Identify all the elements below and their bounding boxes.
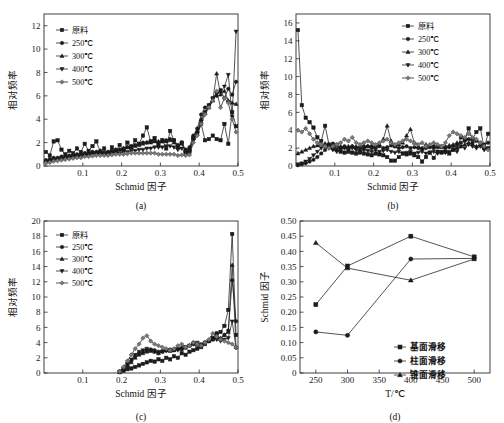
y-tick-label: 6	[36, 91, 41, 101]
legend-item[interactable]: 250℃	[56, 39, 93, 48]
y-tick-label: 0	[288, 161, 293, 171]
legend-item[interactable]: 基面滑移	[394, 341, 446, 352]
y-tick-label: 10	[32, 44, 42, 54]
data-point	[149, 359, 152, 362]
legend-label: 300℃	[72, 255, 93, 264]
y-tick-label: 4	[288, 125, 293, 135]
data-point	[176, 356, 179, 359]
data-point	[312, 126, 315, 129]
x-tick-label: 0.3	[155, 168, 167, 178]
data-point	[413, 145, 417, 149]
legend-item[interactable]: 500℃	[402, 74, 439, 83]
legend-label: 500℃	[72, 78, 93, 87]
legend-item[interactable]: 250℃	[402, 35, 439, 44]
data-point	[404, 137, 408, 141]
series-group	[117, 232, 238, 374]
data-point	[211, 134, 214, 137]
legend-item[interactable]: 400℃	[56, 65, 93, 74]
y-axis-title: Schmid 因子	[260, 271, 270, 322]
legend-item[interactable]: 400℃	[402, 61, 439, 70]
y-tick-label: 10	[284, 72, 294, 82]
data-point	[223, 122, 226, 125]
data-point	[486, 141, 490, 145]
x-axis: 0.10.20.30.40.5	[77, 370, 244, 386]
data-point	[312, 158, 316, 162]
y-tick-label: 0.25	[281, 292, 297, 302]
legend-item[interactable]: 500℃	[56, 78, 93, 87]
legend-item[interactable]: 锥面滑移	[394, 369, 446, 380]
data-point	[176, 148, 180, 152]
panel-tag: (d)	[389, 412, 400, 423]
legend-item[interactable]: 400℃	[56, 267, 93, 276]
y-axis: 02468101214161820	[32, 216, 48, 378]
x-axis: 250300350400450500	[309, 370, 481, 386]
legend-item[interactable]: 原料	[402, 21, 434, 31]
data-point	[234, 30, 238, 34]
data-point	[226, 73, 230, 77]
y-axis-title: 相对频率	[7, 70, 18, 110]
x-tick-label: 0.5	[484, 168, 496, 178]
y-tick-label: 2	[36, 138, 41, 148]
y-axis: 024681012	[32, 21, 48, 171]
data-point	[455, 150, 459, 154]
legend-label: 柱面滑移	[410, 355, 446, 366]
x-axis-title: Schmid 因子	[367, 182, 418, 192]
data-point	[234, 333, 237, 336]
data-point	[474, 147, 478, 151]
data-point	[192, 349, 195, 352]
data-point	[416, 142, 420, 146]
series-group	[296, 28, 491, 166]
legend-item[interactable]: 300℃	[402, 48, 439, 57]
x-tick-label: 0.4	[194, 375, 206, 385]
y-tick-label: 8	[36, 68, 41, 78]
legend-label: 基面滑移	[409, 341, 446, 352]
data-point	[172, 152, 176, 156]
legend-label: 300℃	[72, 52, 93, 61]
data-point	[118, 143, 121, 146]
data-point	[463, 147, 467, 151]
legend-marker	[398, 359, 402, 363]
data-point	[230, 232, 233, 235]
x-tick-label: 0.1	[329, 168, 340, 178]
x-axis-title: Schmid 因子	[115, 389, 166, 399]
data-point	[130, 367, 133, 370]
data-point	[152, 151, 156, 155]
data-point	[369, 141, 373, 145]
legend-item[interactable]: 500℃	[56, 279, 93, 288]
y-tick-label: 14	[284, 36, 294, 46]
legend-label: 原料	[418, 21, 434, 31]
legend-item[interactable]: 300℃	[56, 52, 93, 61]
x-tick-label: 0.3	[155, 375, 167, 385]
data-point	[408, 127, 412, 131]
data-point	[417, 155, 420, 158]
x-tick-label: 0.5	[232, 168, 244, 178]
legend-item[interactable]: 250℃	[56, 243, 93, 252]
x-tick-label: 0.4	[446, 168, 458, 178]
y-tick-label: 0.30	[281, 277, 297, 287]
data-point	[188, 350, 191, 353]
data-point	[153, 360, 156, 363]
data-point	[172, 146, 176, 150]
legend-item[interactable]: 300℃	[56, 255, 93, 264]
y-tick-label: 8	[288, 90, 293, 100]
data-point	[397, 155, 400, 158]
legend-item[interactable]: 原料	[56, 25, 88, 35]
data-point	[482, 148, 486, 152]
x-tick-label: 0.3	[407, 168, 419, 178]
series-2	[314, 256, 477, 337]
data-point	[168, 129, 171, 132]
legend-label: 500℃	[72, 279, 93, 288]
data-point	[432, 156, 435, 159]
x-axis-title: Schmid 因子	[115, 182, 166, 192]
data-point	[300, 104, 303, 107]
data-point	[126, 141, 129, 144]
legend-item[interactable]: 柱面滑移	[394, 355, 446, 366]
data-point	[397, 146, 401, 150]
data-point	[408, 139, 412, 143]
legend-marker	[406, 24, 409, 27]
data-point	[133, 365, 136, 368]
x-tick-label: 250	[309, 375, 323, 385]
data-point	[227, 142, 230, 145]
legend-marker	[398, 345, 402, 349]
legend-item[interactable]: 原料	[56, 230, 88, 240]
